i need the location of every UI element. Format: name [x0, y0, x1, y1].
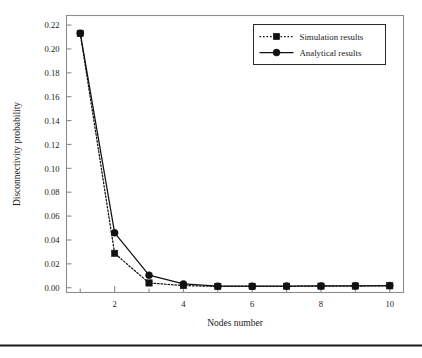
y-axis: 0.000.020.040.060.080.100.120.140.160.18…: [44, 20, 71, 293]
legend-box: [254, 25, 386, 65]
y-tick-label: 0.16: [44, 92, 60, 102]
x-tick-label: 2: [112, 299, 116, 309]
y-axis-title: Disconnectivity probability: [12, 102, 22, 206]
x-tick-label: 10: [385, 299, 394, 309]
data-point-marker: [214, 283, 221, 290]
legend-label: Simulation results: [300, 32, 364, 42]
y-tick-label: 0.06: [44, 211, 60, 221]
data-point-marker: [317, 282, 324, 289]
legend-marker-square: [273, 33, 279, 39]
y-tick-label: 0.00: [44, 283, 59, 293]
y-tick-label: 0.22: [44, 20, 59, 30]
series-analytical: [77, 30, 393, 290]
y-tick-label: 0.12: [44, 140, 59, 150]
data-point-marker: [111, 229, 118, 236]
data-point-marker: [283, 283, 290, 290]
series-simulation: [77, 30, 393, 289]
y-tick-label: 0.10: [44, 164, 59, 174]
data-point-marker: [146, 280, 152, 286]
y-tick-label: 0.14: [44, 116, 60, 126]
legend-marker-circle: [273, 49, 280, 56]
series-line: [80, 33, 389, 286]
data-point-marker: [146, 272, 153, 279]
legend-label: Analytical results: [300, 48, 362, 58]
y-tick-label: 0.18: [44, 68, 59, 78]
data-point-marker: [77, 30, 84, 37]
series-layer: [77, 30, 393, 290]
data-point-marker: [352, 282, 359, 289]
y-tick-label: 0.20: [44, 44, 59, 54]
x-axis: 246810: [80, 286, 394, 309]
x-tick-label: 8: [319, 299, 323, 309]
x-axis-title: Nodes number: [207, 318, 264, 328]
data-point-marker: [111, 250, 117, 256]
y-tick-label: 0.04: [44, 235, 60, 245]
y-tick-label: 0.02: [44, 259, 59, 269]
figure-container: 0.000.020.040.060.080.100.120.140.160.18…: [0, 0, 422, 358]
data-point-marker: [386, 282, 393, 289]
y-tick-label: 0.08: [44, 187, 59, 197]
x-tick-label: 6: [250, 299, 255, 309]
x-tick-label: 4: [181, 299, 186, 309]
data-point-marker: [249, 283, 256, 290]
legend: Simulation resultsAnalytical results: [254, 25, 386, 65]
data-point-marker: [180, 280, 187, 287]
disconnectivity-probability-chart: 0.000.020.040.060.080.100.120.140.160.18…: [0, 0, 422, 358]
